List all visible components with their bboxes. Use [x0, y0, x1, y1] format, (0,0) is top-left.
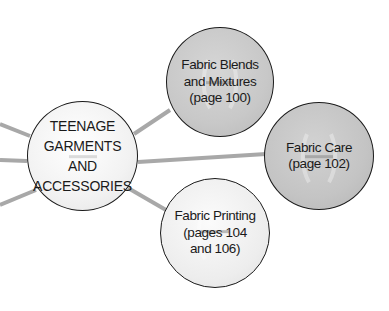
node-fabric-blends-label: Fabric Blends and Mixtures (page 100) — [181, 57, 258, 107]
center-node-label: TEENAGE GARMENTS AND ACCESSORIES — [28, 116, 137, 196]
connector-left-middle — [0, 160, 27, 161]
connector-left-upper — [0, 124, 30, 136]
connector-center-blends — [134, 110, 170, 134]
node-fabric-care: Fabric Care (page 102) — [264, 102, 374, 210]
node-fabric-care-label: Fabric Care (page 102) — [286, 140, 352, 173]
node-fabric-printing-label: Fabric Printing (pages 104 and 106) — [174, 208, 255, 258]
connector-center-care — [138, 154, 266, 162]
node-fabric-blends: Fabric Blends and Mixtures (page 100) — [166, 27, 274, 137]
center-node-teenage-garments: TEENAGE GARMENTS AND ACCESSORIES — [27, 101, 138, 211]
node-fabric-printing: Fabric Printing (pages 104 and 106) — [160, 178, 270, 288]
